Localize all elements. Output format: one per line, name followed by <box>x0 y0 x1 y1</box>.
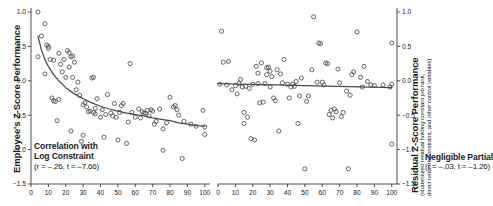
data-point <box>100 108 104 112</box>
y-tick-label: 0.5 <box>402 43 411 50</box>
x-tick-label: 0 <box>29 189 33 196</box>
data-point <box>71 75 75 79</box>
annotation-left-stats: (r = –.26, t = –7.66) <box>34 162 99 172</box>
x-tick-label: 70 <box>336 189 344 196</box>
x-tick-label: 10 <box>232 189 240 196</box>
data-point <box>219 29 223 33</box>
data-point <box>242 121 246 125</box>
panel-left: Employee's Z-Score Performance 1.00.50.0… <box>0 0 215 206</box>
y-tick-label: −0.5 <box>13 112 26 119</box>
data-point <box>128 62 132 66</box>
data-point <box>221 60 225 64</box>
data-point <box>69 129 73 133</box>
annotation-left-line1: Correlation with <box>34 141 99 151</box>
data-point <box>294 79 298 83</box>
data-point <box>102 135 106 139</box>
data-point <box>365 79 369 83</box>
y-tick-label: 1.0 <box>17 8 26 15</box>
data-point <box>43 72 47 76</box>
data-point <box>104 112 108 116</box>
x-tick-label: 100 <box>386 189 397 196</box>
x-tick-label: 50 <box>114 189 122 196</box>
data-point <box>138 116 142 120</box>
data-point <box>36 10 40 14</box>
data-point <box>158 107 162 111</box>
data-point <box>72 60 76 64</box>
data-point <box>336 67 340 71</box>
x-tick-label: 70 <box>149 189 157 196</box>
data-point <box>299 76 303 80</box>
data-point <box>306 94 310 98</box>
data-point <box>126 120 130 124</box>
scatter-plot-right: 1.00.50.0−0.5−1.0−1.50102030405060708090… <box>215 0 430 206</box>
data-point <box>43 22 47 26</box>
y-axis-subtitle-right-line2: direct network constraint, and other con… <box>425 59 432 196</box>
data-point <box>85 105 89 109</box>
data-point <box>74 88 78 92</box>
x-tick-label: 30 <box>79 189 87 196</box>
data-point <box>133 115 137 119</box>
data-point <box>268 85 272 89</box>
data-point <box>265 73 269 77</box>
data-point <box>36 55 40 59</box>
data-point <box>298 94 302 98</box>
data-point <box>203 125 207 129</box>
x-tick-label: 80 <box>353 189 361 196</box>
data-point <box>339 115 343 119</box>
data-point <box>296 121 300 125</box>
scatter-markers <box>36 10 207 161</box>
annotation-left: Correlation with Log Constraint (r = –.2… <box>34 141 99 172</box>
data-point <box>280 81 284 85</box>
x-tick-label: 100 <box>199 189 210 196</box>
data-point <box>341 110 345 114</box>
data-point <box>287 96 291 100</box>
data-point <box>239 77 243 81</box>
data-point <box>242 110 246 114</box>
data-point <box>259 61 263 65</box>
data-point <box>315 80 319 84</box>
y-axis-subtitle-right-line1: (studentized residual holding constant j… <box>418 74 425 196</box>
panel-right: 1.00.50.0−0.5−1.0−1.50102030405060708090… <box>215 0 430 206</box>
data-point <box>76 80 80 84</box>
scatter-markers <box>218 15 394 171</box>
data-point <box>348 93 352 97</box>
data-point <box>175 108 179 112</box>
data-point <box>93 106 97 110</box>
data-point <box>60 70 64 74</box>
x-tick-label: 80 <box>166 189 174 196</box>
data-point <box>247 86 251 90</box>
x-tick-label: 50 <box>301 189 309 196</box>
x-tick-label: 0 <box>216 189 220 196</box>
y-tick-label: −1.0 <box>13 146 26 153</box>
data-point <box>112 101 116 105</box>
data-point <box>245 115 249 119</box>
data-point <box>203 132 207 136</box>
data-point <box>235 92 239 96</box>
x-tick-label: 20 <box>249 189 257 196</box>
data-point <box>390 41 394 45</box>
data-point <box>390 142 394 146</box>
data-point <box>161 148 165 152</box>
data-point <box>55 119 59 123</box>
data-point <box>381 83 385 87</box>
x-tick-label: 60 <box>319 189 327 196</box>
data-point <box>161 127 165 131</box>
data-point <box>268 69 272 73</box>
y-tick-label: 1.0 <box>402 8 411 15</box>
data-point <box>254 64 258 68</box>
x-tick-label: 60 <box>132 189 140 196</box>
data-point <box>180 156 184 160</box>
annotation-right: Negligible Partial (r = –.03, t = –1.26) <box>425 152 493 173</box>
data-point <box>305 99 309 103</box>
data-point <box>57 97 61 101</box>
data-point <box>312 15 316 19</box>
data-point <box>64 75 68 79</box>
data-point <box>338 81 342 85</box>
x-tick-label: 40 <box>284 189 292 196</box>
data-point <box>362 64 366 68</box>
data-point <box>327 112 331 116</box>
data-point <box>67 65 71 69</box>
data-point <box>358 75 362 79</box>
x-tick-label: 90 <box>371 189 379 196</box>
data-point <box>282 57 286 61</box>
